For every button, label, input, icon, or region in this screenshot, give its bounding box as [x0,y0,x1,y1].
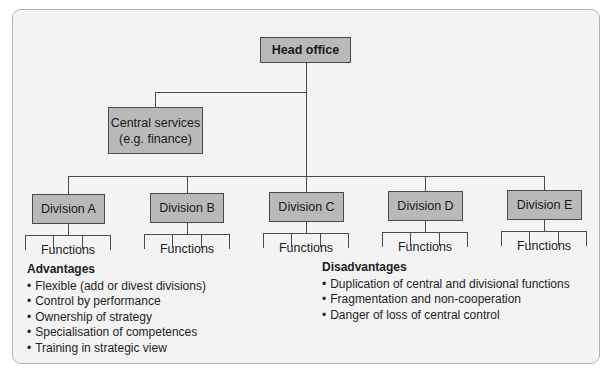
connector-division-a [68,176,69,194]
advantage-item: Flexible (add or divest divisions) [27,279,206,295]
division-a-box: Division A [32,194,105,224]
disadvantages-section: Disadvantages Duplication of central and… [322,260,570,323]
head-office-box: Head office [260,37,351,63]
advantage-item: Training in strategic view [27,341,206,357]
connector-division-e [544,176,545,191]
connector-division-d [425,176,426,192]
functions-label-d: Functions [375,240,475,254]
functions-bar-e [501,231,587,232]
division-e-box: Division E [507,190,582,220]
disadvantage-item: Duplication of central and divisional fu… [322,277,570,293]
connector-division-c [306,176,307,192]
division-d-label: Division D [397,198,453,214]
functions-label-e: Functions [494,239,594,253]
functions-stem-b [187,223,188,234]
advantage-item: Specialisation of competences [27,325,206,341]
functions-stem-d [425,221,426,232]
disadvantages-title: Disadvantages [322,260,570,276]
connector-head-vertical [306,62,307,176]
connector-central-vertical [155,92,156,107]
functions-bar-d [382,232,468,233]
advantages-title: Advantages [27,262,206,278]
advantages-section: Advantages Flexible (add or divest divis… [27,262,206,356]
functions-stem-e [544,220,545,231]
connector-central-horizontal [155,92,307,93]
functions-label-a: Functions [18,243,118,257]
functions-stem-c [306,222,307,233]
division-c-label: Division C [278,199,334,215]
division-e-label: Division E [517,197,573,213]
functions-bar-c [263,233,349,234]
division-a-label: Division A [41,201,96,217]
disadvantage-item: Danger of loss of central control [322,308,570,324]
disadvantages-list: Duplication of central and divisional fu… [322,277,570,324]
central-services-label: Central services [111,115,201,131]
functions-label-b: Functions [137,242,237,256]
central-services-sublabel: (e.g. finance) [119,131,192,147]
disadvantage-item: Fragmentation and non-cooperation [322,292,570,308]
division-d-box: Division D [388,191,463,221]
connector-division-b [187,176,188,193]
head-office-label: Head office [272,42,339,58]
division-c-box: Division C [269,192,344,222]
division-b-box: Division B [150,193,224,223]
central-services-box: Central services (e.g. finance) [108,107,203,154]
functions-bar-b [144,234,230,235]
advantages-list: Flexible (add or divest divisions) Contr… [27,279,206,357]
functions-stem-a [68,224,69,235]
functions-label-c: Functions [256,241,356,255]
advantage-item: Control by performance [27,294,206,310]
advantage-item: Ownership of strategy [27,310,206,326]
functions-bar-a [25,235,111,236]
division-b-label: Division B [159,200,215,216]
